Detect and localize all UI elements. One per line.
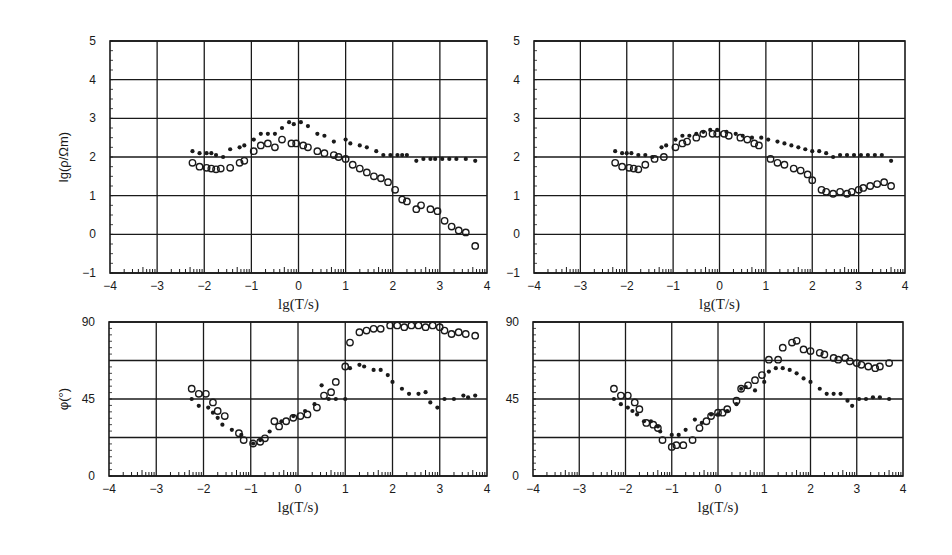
data-point-dot: [292, 122, 296, 126]
data-point-circle: [304, 411, 310, 417]
data-point-circle: [800, 346, 806, 352]
y-tick-label: 2: [89, 150, 96, 164]
data-point-circle: [258, 142, 264, 148]
data-point-dot: [390, 380, 394, 384]
x-tick-label: −4: [103, 279, 117, 293]
data-point-dot: [775, 139, 779, 143]
data-point-dot: [405, 153, 409, 157]
data-point-circle: [370, 326, 376, 332]
data-point-dot: [832, 392, 836, 396]
data-point-circle: [867, 183, 873, 189]
data-point-dot: [452, 397, 456, 401]
data-point-circle: [363, 327, 369, 333]
x-tick-label: −4: [102, 482, 116, 496]
data-point-dot: [197, 151, 201, 155]
data-point-dot: [216, 416, 220, 420]
x-tick-label: −1: [245, 279, 259, 293]
chart-bottom-right-phase: −4−3−2−10123404590lg(T/s): [506, 315, 907, 516]
x-tick-label: 3: [436, 482, 443, 496]
data-point-circle: [357, 165, 363, 171]
data-point-dot: [280, 126, 284, 130]
data-point-dot: [461, 393, 465, 397]
data-point-circle: [347, 339, 353, 345]
data-point-dot: [693, 417, 697, 421]
data-point-circle: [636, 406, 642, 412]
data-point-dot: [753, 388, 757, 392]
y-tick-label: 2: [513, 150, 520, 164]
data-point-circle: [378, 175, 384, 181]
data-point-dot: [831, 155, 835, 159]
data-point-circle: [774, 160, 780, 166]
x-tick-label: −1: [244, 482, 258, 496]
data-point-dot: [670, 433, 674, 437]
x-tick-label: −1: [665, 482, 679, 496]
x-tick-label: −3: [149, 482, 163, 496]
data-point-dot: [880, 153, 884, 157]
data-point-circle: [279, 136, 285, 142]
data-point-dot: [801, 376, 805, 380]
y-tick-label: 0: [89, 227, 96, 241]
data-point-dot: [808, 380, 812, 384]
y-tick-label: 0: [513, 227, 520, 241]
data-point-dot: [852, 153, 856, 157]
data-point-dot: [320, 383, 324, 387]
x-axis-label: lg(T/s): [278, 499, 319, 516]
data-point-dot: [818, 387, 822, 391]
data-point-circle: [314, 148, 320, 154]
data-point-circle: [837, 189, 843, 195]
data-point-circle: [401, 324, 407, 330]
data-point-dot: [334, 397, 338, 401]
data-point-dot: [878, 395, 882, 399]
data-point-dot: [206, 405, 210, 409]
data-point-dot: [407, 392, 411, 396]
y-tick-label: −1: [82, 266, 96, 280]
data-point-dot: [221, 155, 225, 159]
x-tick-label: 1: [763, 279, 770, 293]
data-point-circle: [222, 413, 228, 419]
data-point-circle: [328, 389, 334, 395]
data-point-circle: [371, 173, 377, 179]
data-point-dot: [374, 149, 378, 153]
data-point-circle: [612, 160, 618, 166]
data-point-dot: [343, 397, 347, 401]
data-point-circle: [265, 140, 271, 146]
data-point-dot: [237, 145, 241, 149]
chart-top-right-resistivity: −4−3−2−101234−1012345lg(T/s): [506, 34, 908, 313]
data-point-dot: [358, 143, 362, 147]
data-point-dot: [626, 405, 630, 409]
data-point-dot: [871, 395, 875, 399]
data-point-dot: [659, 145, 663, 149]
data-point-dot: [379, 368, 383, 372]
data-point-dot: [251, 441, 255, 445]
data-point-circle: [456, 227, 462, 233]
data-point-dot: [400, 153, 404, 157]
y-tick-label: 0: [512, 469, 519, 483]
data-point-dot: [473, 159, 477, 163]
data-point-circle: [441, 218, 447, 224]
data-point-dot: [759, 136, 763, 140]
data-point-dot: [774, 366, 778, 370]
data-point-circle: [214, 408, 220, 414]
data-point-dot: [299, 120, 303, 124]
data-point-dot: [767, 370, 771, 374]
x-tick-label: 2: [809, 279, 816, 293]
data-point-dot: [734, 132, 738, 136]
data-point-dot: [850, 404, 854, 408]
data-point-circle: [408, 322, 414, 328]
data-point-dot: [416, 392, 420, 396]
series-open-circles: [611, 338, 893, 450]
data-point-dot: [810, 149, 814, 153]
data-point-dot: [473, 393, 477, 397]
data-point-circle: [385, 179, 391, 185]
data-point-dot: [395, 153, 399, 157]
figure: −4−3−2−101234−1012345lg(T/s)lg(ρ/Ωm) −4−…: [0, 0, 952, 555]
data-point-circle: [463, 331, 469, 337]
data-point-dot: [388, 153, 392, 157]
data-point-dot: [357, 363, 361, 367]
x-tick-label: −2: [619, 482, 633, 496]
data-point-circle: [791, 165, 797, 171]
data-point-dot: [762, 380, 766, 384]
data-point-dot: [306, 124, 310, 128]
data-point-dot: [619, 402, 623, 406]
series-filled-dots: [190, 363, 478, 446]
